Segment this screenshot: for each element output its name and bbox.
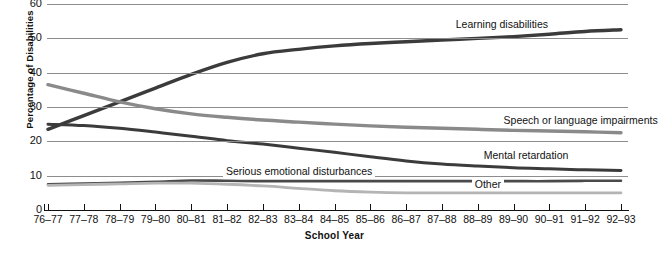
gridline: [47, 141, 628, 142]
x-axis-tick: [155, 204, 156, 211]
x-axis-tick: [335, 204, 336, 211]
x-axis-tick-label: 91–92: [571, 213, 600, 225]
series-label-mental-retardation: Mental retardation: [484, 149, 569, 161]
x-axis-tick-label: 77–78: [69, 213, 98, 225]
x-axis-tick-label: 85–86: [356, 213, 385, 225]
x-axis-tick: [299, 204, 300, 211]
series-label-learning-disabilities: Learning disabilities: [456, 18, 548, 30]
x-axis-tick-label: 81–82: [212, 213, 241, 225]
x-axis-tick-label: 90–91: [535, 213, 564, 225]
gridline: [47, 4, 628, 5]
x-axis-tick: [549, 204, 550, 211]
x-axis-tick: [442, 204, 443, 211]
x-axis-tick: [478, 204, 479, 211]
x-axis-tick-label: 84–85: [320, 213, 349, 225]
x-axis-tick-label: 76–77: [33, 213, 62, 225]
x-axis-tick: [585, 204, 586, 211]
x-axis-tick: [191, 204, 192, 211]
x-axis-tick: [48, 204, 49, 211]
x-axis-tick-label: 82–83: [248, 213, 277, 225]
x-axis-tick-label: 83–84: [284, 213, 313, 225]
y-axis-tick-label: 30: [20, 101, 42, 112]
x-axis-tick-label: 89–90: [499, 213, 528, 225]
x-axis-tick-label: 92–93: [606, 213, 635, 225]
x-axis-tick: [227, 204, 228, 211]
x-axis-tick: [263, 204, 264, 211]
y-axis-tick-label: 20: [20, 135, 42, 146]
y-axis-tick-label: 50: [20, 32, 42, 43]
x-axis-tick-label: 79–80: [141, 213, 170, 225]
series-label-serious-emotional-disturbances: Serious emotional disturbances: [223, 165, 376, 177]
x-axis-tick-label: 87–88: [427, 213, 456, 225]
x-axis-tick-label: 86–87: [392, 213, 421, 225]
x-axis-title-text: School Year: [305, 230, 364, 241]
x-axis-tick: [621, 204, 622, 211]
x-axis-tick: [406, 204, 407, 211]
y-axis-tick-label: 40: [20, 67, 42, 78]
plot-area: [47, 4, 628, 210]
y-axis-tick-label: 10: [20, 170, 42, 181]
x-axis-tick: [120, 204, 121, 211]
x-axis-tick: [514, 204, 515, 211]
x-axis-tick: [370, 204, 371, 211]
gridline: [47, 107, 628, 108]
x-axis-tick-label: 88–89: [463, 213, 492, 225]
gridline: [47, 38, 628, 39]
x-axis-tick-label: 78–79: [105, 213, 134, 225]
x-axis-tick-label: 80–81: [177, 213, 206, 225]
y-axis-tick-label: 60: [20, 0, 42, 9]
x-axis-origin-tick: [44, 204, 45, 211]
series-line: [48, 183, 621, 193]
gridline: [47, 73, 628, 74]
x-axis-tick: [84, 204, 85, 211]
series-label-other: Other: [472, 178, 504, 190]
series-label-speech-or-language-impairments: Speech or language impairments: [504, 114, 658, 126]
x-axis-line: [44, 210, 629, 211]
x-axis-title: School Year: [0, 230, 633, 241]
